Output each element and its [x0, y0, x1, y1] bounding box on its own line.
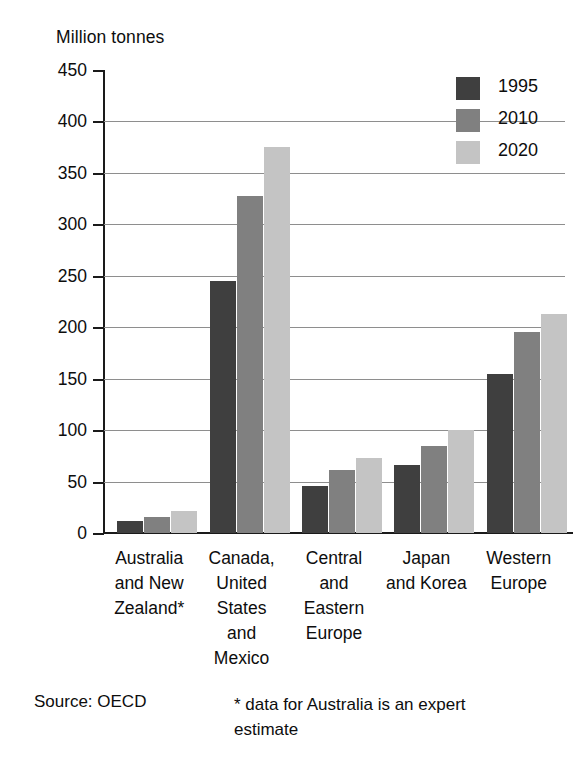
category-label-line: Europe	[292, 621, 376, 646]
y-tick-label: 0	[77, 523, 87, 544]
bar	[117, 521, 143, 533]
bar	[237, 196, 263, 533]
bar-chart: Million tonnes 0501001502002503003504004…	[0, 0, 579, 781]
category-label-line: Europe	[477, 571, 561, 596]
legend-item[interactable]: 2010	[456, 106, 576, 138]
category-label-line: States	[199, 596, 283, 621]
bar	[171, 511, 197, 533]
y-tick-label: 100	[58, 420, 87, 441]
category-label-line: Central	[292, 546, 376, 571]
category-label-line: Australia	[107, 546, 191, 571]
legend-item-label: 2010	[498, 108, 538, 129]
bar-group	[210, 70, 290, 533]
x-axis-category-labels: Australiaand NewZealand*Canada,UnitedSta…	[103, 546, 573, 696]
bar	[329, 470, 355, 533]
bar	[302, 486, 328, 533]
bar	[264, 147, 290, 533]
category-label-line: Western	[477, 546, 561, 571]
category-label-line: Mexico	[199, 646, 283, 671]
y-tick-label: 150	[58, 368, 87, 389]
x-axis-category-label: Australiaand NewZealand*	[107, 546, 191, 621]
chart-axis-title: Million tonnes	[56, 27, 164, 48]
y-tick-mark	[93, 276, 104, 278]
y-tick-mark	[93, 121, 104, 123]
y-tick-label: 450	[58, 60, 87, 81]
source-note: Source: OECD	[34, 692, 146, 712]
chart-legend: 199520102020	[456, 74, 576, 170]
y-tick-mark	[93, 533, 104, 535]
legend-swatch-icon	[456, 77, 480, 100]
footnote: * data for Australia is an expert estima…	[234, 692, 494, 742]
y-tick-mark	[93, 70, 104, 72]
bar	[448, 430, 474, 533]
bar-group	[117, 70, 197, 533]
bar	[394, 465, 420, 533]
y-tick-label: 400	[58, 111, 87, 132]
category-label-line: Zealand*	[107, 596, 191, 621]
bar	[541, 314, 567, 533]
bar	[144, 517, 170, 533]
legend-swatch-icon	[456, 109, 480, 132]
category-label-line: and Korea	[384, 571, 468, 596]
y-tick-mark	[93, 173, 104, 175]
category-label-line: Eastern	[292, 596, 376, 621]
bar	[514, 332, 540, 533]
category-label-line: Canada,	[199, 546, 283, 571]
bar	[421, 446, 447, 533]
legend-item[interactable]: 2020	[456, 138, 576, 170]
x-axis-category-label: WesternEurope	[477, 546, 561, 596]
bar	[356, 458, 382, 533]
y-tick-label: 300	[58, 214, 87, 235]
x-axis-category-label: Canada,UnitedStatesandMexico	[199, 546, 283, 671]
bar	[487, 374, 513, 533]
bar	[210, 281, 236, 533]
category-label-line: and New	[107, 571, 191, 596]
bar-group	[302, 70, 382, 533]
y-tick-label: 350	[58, 162, 87, 183]
x-axis-category-label: CentralandEasternEurope	[292, 546, 376, 646]
legend-item-label: 2020	[498, 140, 538, 161]
y-tick-mark	[93, 224, 104, 226]
y-tick-label: 200	[58, 317, 87, 338]
y-tick-label: 50	[68, 471, 87, 492]
category-label-line: and	[199, 621, 283, 646]
y-tick-mark	[93, 327, 104, 329]
y-tick-mark	[93, 430, 104, 432]
legend-swatch-icon	[456, 141, 480, 164]
legend-item[interactable]: 1995	[456, 74, 576, 106]
category-label-line: Japan	[384, 546, 468, 571]
y-tick-mark	[93, 379, 104, 381]
y-axis-line	[103, 70, 105, 533]
y-tick-label: 250	[58, 265, 87, 286]
category-label-line: United	[199, 571, 283, 596]
x-axis-category-label: Japanand Korea	[384, 546, 468, 596]
y-tick-mark	[93, 482, 104, 484]
legend-item-label: 1995	[498, 76, 538, 97]
category-label-line: and	[292, 571, 376, 596]
